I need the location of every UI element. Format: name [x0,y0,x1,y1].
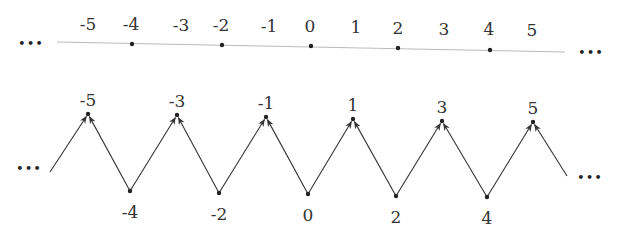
number-line-dot [488,48,492,52]
number-line-label: -3 [173,15,190,35]
zigzag-node [264,115,268,119]
zigzag-peak-label: 3 [437,97,448,117]
zigzag-ellipsis-left: ••• [16,161,42,176]
number-line-label: 5 [527,20,538,40]
number-line-dot [220,43,224,47]
zigzag-node [306,192,310,196]
number-line-label: 2 [393,18,404,38]
zigzag-node [440,119,444,123]
zigzag-node [531,120,535,124]
zigzag-valley-label: 0 [303,205,314,225]
zigzag-node [394,194,398,198]
zigzag-valley-label: 4 [482,208,493,228]
number-line-label: 3 [439,19,450,39]
bijection-diagram: ••• ••• -5-4-3-2-1012345 ••• ••• -5-3-11… [0,0,618,240]
zigzag-peak-label: 5 [528,98,539,118]
zigzag-peak-label: -5 [80,90,97,110]
zigzag-peak-label: -1 [258,93,275,113]
number-line-label: 1 [351,17,362,37]
number-line-dot [396,46,400,50]
zigzag-ellipsis-right: ••• [577,170,603,185]
zigzag-node [351,117,355,121]
zigzag-node [128,189,132,193]
number-line-label: 0 [305,16,316,36]
zigzag-node [175,113,179,117]
zigzag-node [485,195,489,199]
zigzag-arrow [219,120,264,193]
zigzag-arrow [396,124,440,196]
zigzag-arrow [178,118,219,193]
zigzag-arrow [308,122,351,194]
zigzag-node [217,191,221,195]
zigzag-valley-label: 2 [391,207,402,227]
zigzag-arrow [444,124,487,197]
number-line-dot [309,44,313,48]
zigzag-arrow [267,120,308,194]
number-line-label: -5 [80,14,97,34]
zigzag-valley-label: -4 [122,202,139,222]
zigzag-arrow [50,117,86,172]
number-line: ••• ••• -5-4-3-2-1012345 [18,14,604,60]
zigzag-path: ••• ••• -5-3-1135-4-2024 [16,90,603,228]
zigzag-arrow [535,125,567,176]
zigzag-valley-label: -2 [211,204,228,224]
zigzag-node [86,112,90,116]
zigzag-arrow [487,125,531,197]
number-line-label: -1 [261,16,278,36]
number-line-label: -4 [123,14,140,34]
zigzag-arrow [354,122,396,196]
ellipsis-left: ••• [18,36,44,51]
zigzag-arrow [130,118,175,191]
number-line-dot [130,42,134,46]
number-line-label: 4 [484,19,495,39]
ellipsis-right: ••• [578,45,604,60]
zigzag-peak-label: 1 [348,95,359,115]
zigzag-peak-label: -3 [169,91,186,111]
number-line-label: -2 [213,15,230,35]
zigzag-arrow [89,117,130,191]
